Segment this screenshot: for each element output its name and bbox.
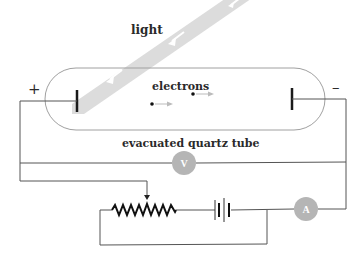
rheostat-slider-arrow-icon — [144, 195, 150, 200]
tube-label: evacuated quartz tube — [122, 137, 259, 150]
electrons-label: electrons — [152, 80, 209, 93]
battery — [215, 198, 229, 222]
light-label: light — [131, 23, 163, 37]
electron-1 — [150, 102, 173, 107]
ammeter: A — [294, 197, 318, 221]
negative-terminal-label: – — [332, 78, 340, 96]
voltmeter: V — [172, 151, 196, 175]
voltmeter-label: V — [180, 158, 188, 169]
light-beam — [72, 0, 258, 114]
photoelectric-diagram: light electrons evacuated quartz tube + … — [0, 0, 364, 259]
ammeter-label: A — [302, 204, 310, 215]
positive-terminal-label: + — [28, 80, 41, 98]
rheostat — [112, 204, 176, 215]
